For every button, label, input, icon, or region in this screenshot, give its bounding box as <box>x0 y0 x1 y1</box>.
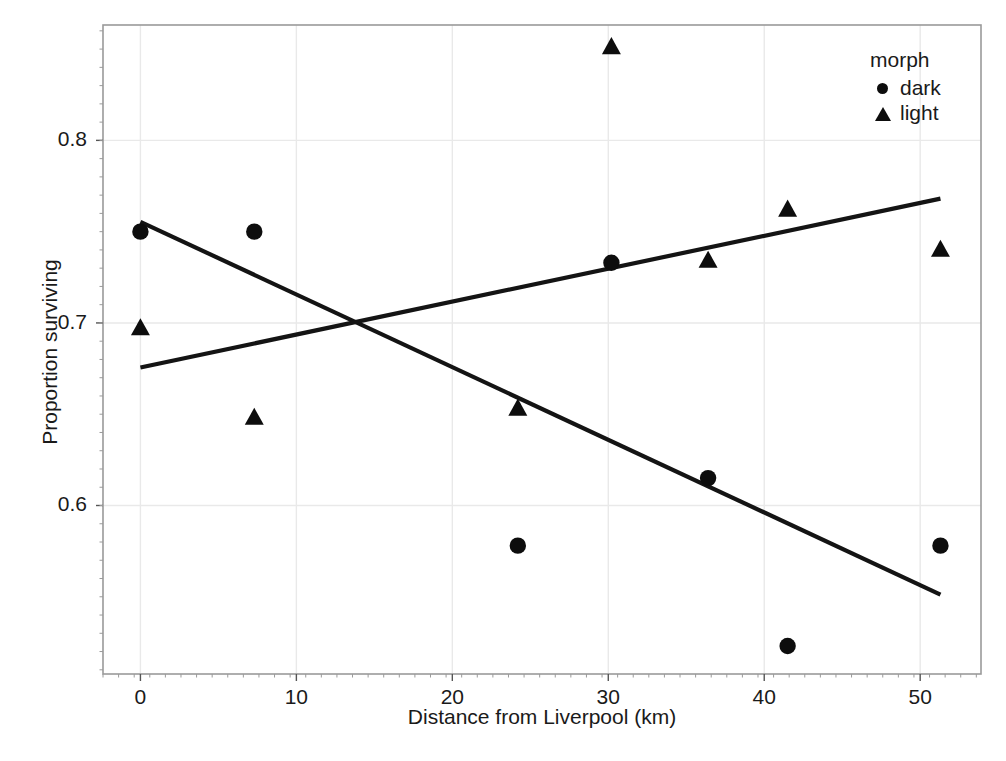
x-axis-title: Distance from Liverpool (km) <box>103 705 981 729</box>
data-point-dark <box>932 537 948 553</box>
plot-canvas <box>0 0 1006 761</box>
legend-title: morph <box>870 48 992 72</box>
axis-ticks <box>96 31 976 681</box>
data-point-dark <box>700 470 716 486</box>
data-point-dark <box>779 638 795 654</box>
legend: morph dark light <box>862 48 992 125</box>
circle-marker-icon <box>872 77 894 99</box>
data-point-light <box>245 408 264 425</box>
fit-line-dark <box>140 222 940 595</box>
data-point-light <box>931 240 950 257</box>
data-point-dark <box>603 254 619 270</box>
regression-lines <box>140 199 940 595</box>
triangle-marker-icon <box>872 102 894 124</box>
data-point-light <box>602 37 621 54</box>
fit-line-light <box>140 199 940 368</box>
y-tick-label: 0.8 <box>19 127 87 151</box>
y-axis-title: Proportion surviving <box>38 212 62 492</box>
data-point-dark <box>510 537 526 553</box>
data-point-dark <box>132 223 148 239</box>
legend-label-dark: dark <box>900 76 941 100</box>
data-point-light <box>131 318 150 335</box>
legend-item-light[interactable]: light <box>872 100 992 125</box>
data-point-light <box>699 251 718 268</box>
y-tick-label: 0.6 <box>19 492 87 516</box>
chart-figure: 010203040500.60.70.8 Distance from Liver… <box>0 0 1006 761</box>
legend-item-dark[interactable]: dark <box>872 75 992 100</box>
legend-label-light: light <box>900 101 939 125</box>
data-point-light <box>778 200 797 217</box>
data-point-dark <box>246 223 262 239</box>
